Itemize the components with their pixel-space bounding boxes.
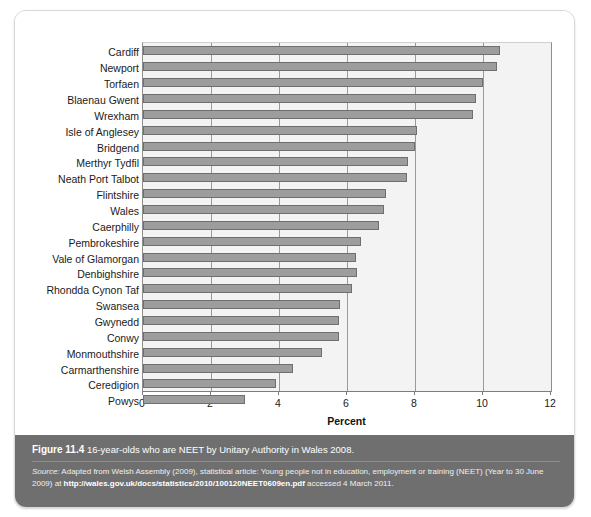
category-label: Ceredigion	[88, 380, 139, 391]
figure-caption: Figure 11.4 16-year-olds who are NEET by…	[32, 443, 560, 456]
category-label: Bridgend	[97, 143, 139, 154]
category-label: Conwy	[107, 333, 139, 344]
category-label: Wrexham	[94, 111, 139, 122]
x-tick-label-8: 8	[411, 397, 417, 409]
figure-card: CardiffNewportTorfaenBlaenau GwentWrexha…	[14, 10, 575, 508]
category-label: Pembrokeshire	[68, 238, 139, 249]
bar[interactable]: Bridgend	[143, 142, 415, 151]
figure-number: Figure 11.4	[32, 444, 84, 455]
x-tick-12	[550, 391, 551, 395]
category-label: Wales	[110, 206, 139, 217]
x-tick-label-12: 12	[544, 397, 556, 409]
bar[interactable]: Gwynedd	[143, 316, 339, 325]
bar[interactable]: Torfaen	[143, 78, 483, 87]
x-tick-10	[482, 391, 483, 395]
bar[interactable]: Swansea	[143, 300, 340, 309]
category-label: Flintshire	[96, 190, 139, 201]
caption-band: Figure 11.4 16-year-olds who are NEET by…	[15, 435, 574, 507]
category-label: Isle of Anglesey	[65, 127, 139, 138]
bar[interactable]: Vale of Glamorgan	[143, 253, 356, 262]
category-label: Blaenau Gwent	[67, 95, 139, 106]
bar[interactable]: Denbighshire	[143, 268, 357, 277]
category-label: Newport	[100, 63, 139, 74]
category-label: Caerphilly	[92, 222, 139, 233]
figure-caption-text: 16-year-olds who are NEET by Unitary Aut…	[87, 444, 354, 455]
bar[interactable]: Carmarthenshire	[143, 364, 293, 373]
category-label: Merthyr Tydfil	[76, 158, 139, 169]
figure-page: CardiffNewportTorfaenBlaenau GwentWrexha…	[0, 0, 591, 517]
bar[interactable]: Caerphilly	[143, 221, 379, 230]
x-tick-4	[278, 391, 279, 395]
bar[interactable]: Wrexham	[143, 110, 473, 119]
category-label: Cardiff	[108, 47, 139, 58]
bar[interactable]: Pembrokeshire	[143, 237, 361, 246]
category-label: Powys	[108, 396, 139, 407]
category-label: Torfaen	[104, 79, 139, 90]
bar[interactable]: Blaenau Gwent	[143, 94, 476, 103]
bar[interactable]: Newport	[143, 62, 497, 71]
plot-region: CardiffNewportTorfaenBlaenau GwentWrexha…	[142, 42, 552, 392]
bar[interactable]: Isle of Anglesey	[143, 126, 417, 135]
bar[interactable]: Flintshire	[143, 189, 386, 198]
bar[interactable]: Rhondda Cynon Taf	[143, 284, 352, 293]
x-tick-label-6: 6	[343, 397, 349, 409]
bar[interactable]: Conwy	[143, 332, 339, 341]
source-label: Source:	[32, 467, 60, 476]
x-tick-label-10: 10	[476, 397, 488, 409]
category-label: Carmarthenshire	[61, 365, 139, 376]
x-tick-6	[346, 391, 347, 395]
bar[interactable]: Merthyr Tydfil	[143, 157, 408, 166]
bar[interactable]: Neath Port Talbot	[143, 173, 407, 182]
caption-divider	[32, 461, 560, 462]
category-label: Swansea	[96, 301, 139, 312]
category-label: Neath Port Talbot	[58, 174, 139, 185]
bar[interactable]: Ceredigion	[143, 379, 276, 388]
category-label: Rhondda Cynon Taf	[46, 285, 139, 296]
x-axis-title: Percent	[142, 415, 551, 427]
bar[interactable]: Wales	[143, 205, 384, 214]
source-text-last: accessed 4 March 2011.	[305, 479, 394, 488]
bar[interactable]: Powys	[143, 395, 245, 404]
category-label: Gwynedd	[95, 317, 139, 328]
category-label: Denbighshire	[77, 269, 139, 280]
source-url-link[interactable]: http://wales.gov.uk/docs/statistics/2010…	[64, 479, 305, 488]
bar[interactable]: Cardiff	[143, 46, 500, 55]
bar[interactable]: Monmouthshire	[143, 348, 322, 357]
gridline-10	[483, 43, 484, 392]
category-label: Monmouthshire	[67, 349, 139, 360]
figure-source: Source: Adapted from Welsh Assembly (200…	[32, 466, 560, 489]
chart-area: CardiffNewportTorfaenBlaenau GwentWrexha…	[15, 11, 574, 435]
x-tick-label-4: 4	[275, 397, 281, 409]
x-tick-8	[414, 391, 415, 395]
category-label: Vale of Glamorgan	[52, 254, 139, 265]
